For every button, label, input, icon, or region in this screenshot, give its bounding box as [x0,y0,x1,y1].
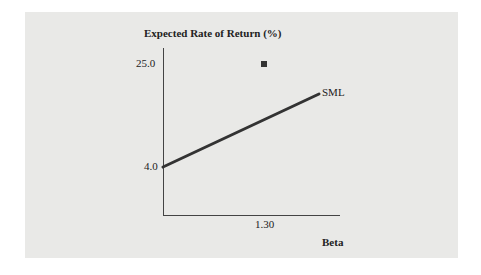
y-axis-label: Expected Rate of Return (%) [144,27,281,39]
x-axis-label: Beta [322,236,343,248]
sml-label: SML [322,86,345,98]
chart-plot [0,0,481,275]
sml-line [163,94,319,167]
stock-point-marker [261,61,267,67]
x-tick-1-30: 1.30 [255,218,274,230]
y-tick-25: 25.0 [136,57,155,69]
y-tick-4: 4.0 [144,160,158,172]
